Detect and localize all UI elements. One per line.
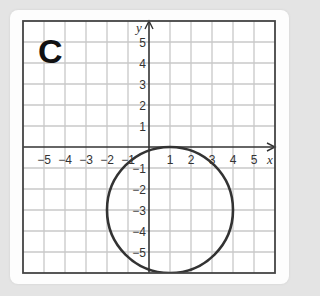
y-tick-label: 2 (139, 99, 146, 113)
x-tick-label: −4 (58, 153, 72, 167)
x-tick-label: −3 (79, 153, 93, 167)
panel-label: C (38, 34, 63, 68)
y-axis-label: y (134, 20, 142, 35)
x-tick-label: −5 (37, 153, 51, 167)
x-tick-label: 1 (167, 153, 174, 167)
y-tick-label: 5 (139, 36, 146, 50)
y-tick-label: 1 (139, 120, 146, 134)
x-tick-label: 5 (251, 153, 258, 167)
x-tick-label: −2 (100, 153, 114, 167)
y-tick-label: −5 (132, 246, 146, 260)
y-tick-label: −1 (132, 162, 146, 176)
y-tick-label: 4 (139, 57, 146, 71)
x-axis-label: x (266, 152, 273, 167)
x-tick-label: 4 (230, 153, 237, 167)
y-tick-label: −3 (132, 204, 146, 218)
y-tick-label: 3 (139, 78, 146, 92)
y-tick-label: −2 (132, 183, 146, 197)
x-tick-label: 2 (188, 153, 195, 167)
y-tick-label: −4 (132, 225, 146, 239)
